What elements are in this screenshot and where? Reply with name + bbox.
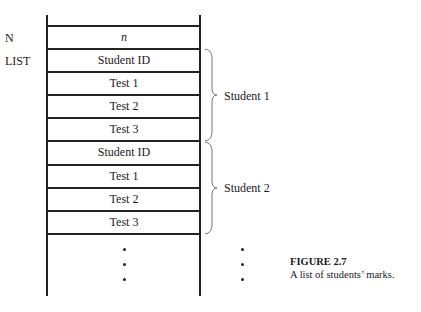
- cell-n: n: [48, 25, 200, 48]
- cell-student1-test2: Test 2: [48, 94, 200, 117]
- brace-icon: [204, 141, 220, 235]
- cell-student2-test1: Test 1: [48, 164, 200, 187]
- cell-student2-test2: Test 2: [48, 187, 200, 210]
- ellipsis-dot: [241, 248, 244, 251]
- label-n: N: [5, 31, 14, 45]
- cell-student2-id: Student ID: [48, 140, 200, 163]
- brace-icon: [204, 48, 220, 142]
- ellipsis-dot: [241, 278, 244, 281]
- group-label-student1: Student 1: [224, 89, 270, 103]
- ellipsis-dot: [241, 263, 244, 266]
- figure-title: FIGURE 2.7: [290, 256, 347, 267]
- cell-student1-id: Student ID: [48, 48, 200, 71]
- cell-student1-test1: Test 1: [48, 71, 200, 94]
- cell-student2-test3: Test 3: [48, 210, 200, 235]
- label-list: LIST: [5, 54, 30, 68]
- ellipsis-dot: [123, 278, 126, 281]
- cell-student1-test3: Test 3: [48, 117, 200, 140]
- ellipsis-dot: [123, 248, 126, 251]
- figure-caption: A list of students’ marks.: [290, 269, 395, 280]
- ellipsis-dot: [123, 263, 126, 266]
- group-label-student2: Student 2: [224, 181, 270, 195]
